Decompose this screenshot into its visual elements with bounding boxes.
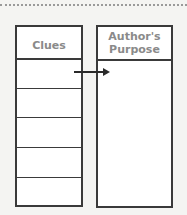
authors-purpose-header: Author's Purpose [98, 27, 171, 61]
authors-purpose-column: Author's Purpose [96, 25, 173, 208]
row-divider [17, 147, 81, 148]
row-divider [17, 88, 81, 89]
arrow-head-icon [103, 68, 110, 76]
clues-column: Clues [15, 25, 83, 207]
row-divider [17, 177, 81, 178]
dotted-divider [0, 4, 187, 6]
clues-header: Clues [17, 27, 81, 60]
row-divider [17, 117, 81, 118]
right-arrow-icon [74, 71, 104, 73]
